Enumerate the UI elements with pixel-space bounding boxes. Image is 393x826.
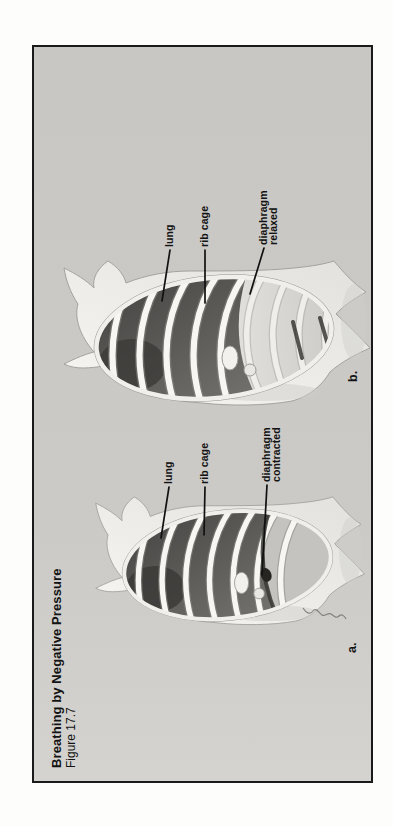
corner-label-b: b. [346,371,360,382]
sternum-detail [222,346,238,370]
label-b-lung: lung [164,224,174,247]
figure-plate: Breathing by Negative Pressure Figure 17… [32,45,373,783]
figure-title-block: Breathing by Negative Pressure Figure 17… [49,568,78,768]
annotation-overlay [34,45,373,781]
sternum-detail [254,588,265,599]
figure-title: Breathing by Negative Pressure [49,568,64,768]
body-shading [339,517,362,584]
label-a-diaphragm: diaphragm contracted [261,427,281,482]
label-b-ribcage: rib cage [199,206,209,247]
label-b-diaphragm: diaphragm relaxed [258,190,278,245]
torso-illustration-b [62,260,373,410]
torso-illustration-a [94,496,368,629]
label-a-ribcage: rib cage [199,443,209,484]
scanned-page: Breathing by Negative Pressure Figure 17… [0,0,393,826]
corner-label-a: a. [345,643,359,653]
figure-number: Figure 17.7 [64,568,78,768]
sternum-detail [244,364,256,376]
body-shading [341,284,367,360]
label-a-lung: lung [163,461,173,484]
sternum-detail [235,572,249,593]
rotated-landscape-page: Breathing by Negative Pressure Figure 17… [0,0,393,826]
